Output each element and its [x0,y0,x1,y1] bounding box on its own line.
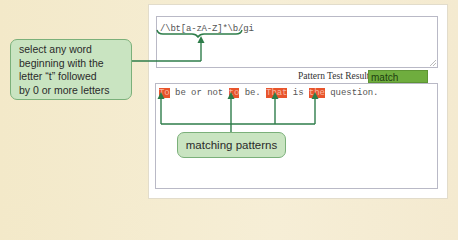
arrow-up-icon [312,92,319,99]
callout-line: beginning with the [19,57,131,71]
arrow-up-icon [272,92,279,99]
connector-lines [0,0,458,205]
arrow-up-icon [228,92,235,99]
brace-icon [157,30,242,37]
callout-line: letter “t” followed [19,70,131,84]
arrow-up-icon [158,92,165,99]
callout-line: select any word [19,43,131,57]
pattern-explanation-callout: select any word beginning with the lette… [10,39,132,100]
callout-line: by 0 or more letters [19,84,131,98]
matching-patterns-callout: matching patterns [177,132,286,158]
